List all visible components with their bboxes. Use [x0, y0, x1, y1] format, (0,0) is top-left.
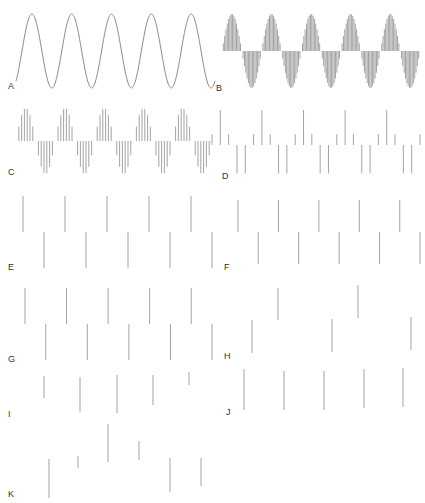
panel-h: [252, 285, 411, 353]
panel-e: [23, 196, 212, 268]
panel-f: [238, 200, 420, 264]
panel-j: [244, 368, 403, 410]
panel-label-h: H: [224, 352, 231, 361]
figure-canvas: [0, 0, 425, 503]
panel-label-f: F: [224, 263, 230, 272]
panel-d: [212, 110, 420, 173]
sampling-figure: ABCDEFGHIJK: [0, 0, 425, 503]
panel-k: [49, 424, 201, 498]
panel-label-d: D: [222, 172, 229, 181]
panel-i: [44, 372, 189, 413]
panel-c: [16, 109, 212, 173]
panel-label-i: I: [8, 410, 11, 419]
panel-a: [16, 14, 215, 88]
panel-g: [25, 288, 212, 360]
panel-b: [222, 14, 420, 88]
panel-label-e: E: [8, 263, 14, 272]
panel-label-g: G: [8, 355, 15, 364]
sine-wave: [16, 14, 215, 88]
panel-label-a: A: [8, 82, 14, 91]
panel-label-k: K: [8, 490, 14, 499]
panel-label-j: J: [226, 408, 231, 417]
panel-label-b: B: [216, 84, 222, 93]
panel-label-c: C: [8, 168, 15, 177]
